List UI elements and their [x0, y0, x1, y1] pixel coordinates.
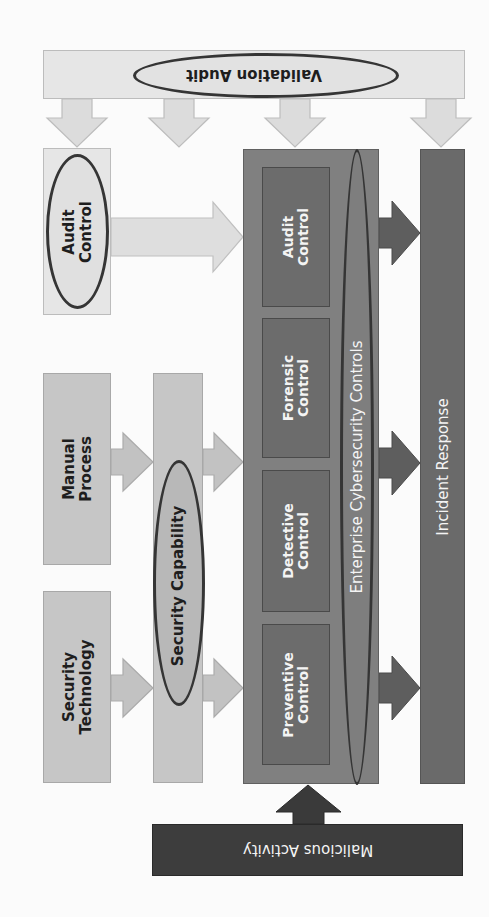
arrow-capability-to-enterprise-2 [203, 659, 243, 717]
control-preventive-line2: Control [296, 652, 311, 737]
control-forensic-box: Forensic Control [262, 318, 330, 458]
incident-response-label: Incident Response [434, 398, 451, 535]
control-forensic-line2: Control [296, 355, 311, 421]
security-technology-line1: Security [61, 640, 78, 735]
control-detective-line1: Detective [281, 503, 296, 579]
arrow-capability-to-enterprise-1 [203, 433, 243, 491]
arrow-validation-to-audit-control [47, 99, 107, 147]
control-preventive-label: Preventive Control [281, 652, 312, 737]
arrow-validation-to-security-capability [149, 99, 209, 147]
malicious-activity-bar: Malicious Activity [152, 824, 463, 876]
control-audit-line1: Audit [281, 208, 296, 266]
audit-control-source-box: Audit Control [43, 148, 111, 315]
arrow-malicious-to-enterprise [276, 785, 341, 824]
arrow-audit-control-to-enterprise [111, 202, 243, 272]
security-capability-bar: Security Capability [153, 373, 203, 783]
security-capability-label: Security Capability [170, 506, 187, 666]
incident-response-bar: Incident Response [420, 149, 465, 784]
enterprise-controls-container: Audit Control Forensic Control Detective… [243, 149, 379, 784]
enterprise-controls-label: Enterprise Cybersecurity Controls [349, 340, 366, 593]
control-audit-line2: Control [296, 208, 311, 266]
manual-process-line2: Process [77, 436, 94, 502]
manual-process-label: Manual Process [61, 436, 94, 502]
arrow-technology-to-capability [111, 659, 153, 717]
control-forensic-line1: Forensic [281, 355, 296, 421]
control-detective-label: Detective Control [281, 503, 312, 579]
security-technology-label: Security Technology [61, 640, 94, 735]
security-technology-line2: Technology [77, 640, 94, 735]
malicious-activity-label: Malicious Activity [242, 842, 372, 859]
arrow-enterprise-to-incident-1 [379, 201, 420, 265]
validation-audit-bar: Validation Audit [43, 50, 465, 99]
control-forensic-label: Forensic Control [281, 355, 312, 421]
control-audit-label: Audit Control [281, 208, 312, 266]
security-technology-box: Security Technology [43, 591, 111, 783]
control-preventive-box: Preventive Control [262, 624, 330, 765]
control-detective-box: Detective Control [262, 470, 330, 612]
validation-audit-label: Validation Audit [186, 66, 322, 83]
audit-control-line2: Control [77, 200, 94, 262]
audit-control-line1: Audit [61, 200, 78, 262]
arrow-enterprise-to-incident-3 [379, 656, 420, 720]
control-audit-box: Audit Control [262, 167, 330, 307]
audit-control-source-label: Audit Control [61, 200, 94, 262]
arrow-enterprise-to-incident-2 [379, 431, 420, 495]
arrow-validation-to-incident-response [411, 99, 471, 147]
control-detective-line2: Control [296, 503, 311, 579]
arrow-validation-to-enterprise-controls [265, 99, 325, 147]
manual-process-line1: Manual [61, 436, 78, 502]
control-preventive-line1: Preventive [281, 652, 296, 737]
arrow-manual-to-capability [111, 433, 153, 491]
manual-process-box: Manual Process [43, 373, 111, 565]
